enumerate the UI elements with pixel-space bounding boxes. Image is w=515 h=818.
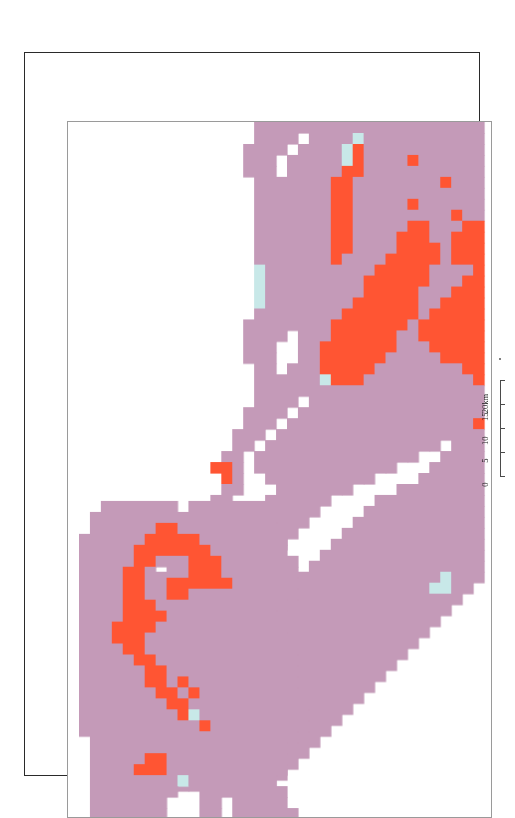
scale-tick-0 (500, 476, 505, 477)
scale-tick-10 (500, 428, 505, 429)
distance-scale-bar: 05101520km (487, 330, 515, 490)
scale-label-15: 15 (481, 413, 490, 422)
scale-tick-15 (500, 404, 505, 405)
scale-label-10: 10 (481, 437, 490, 446)
scale-label-20: 20km (481, 394, 490, 413)
scale-label-5: 5 (481, 458, 490, 462)
scale-tick-20 (500, 380, 505, 381)
outer-map-frame (24, 52, 480, 776)
scale-label-0: 0 (481, 482, 490, 486)
inner-map-neatline (67, 121, 492, 818)
scale-top-marker (499, 358, 501, 360)
thematic-raster-map[interactable] (68, 122, 491, 817)
scale-tick-5 (500, 452, 505, 453)
